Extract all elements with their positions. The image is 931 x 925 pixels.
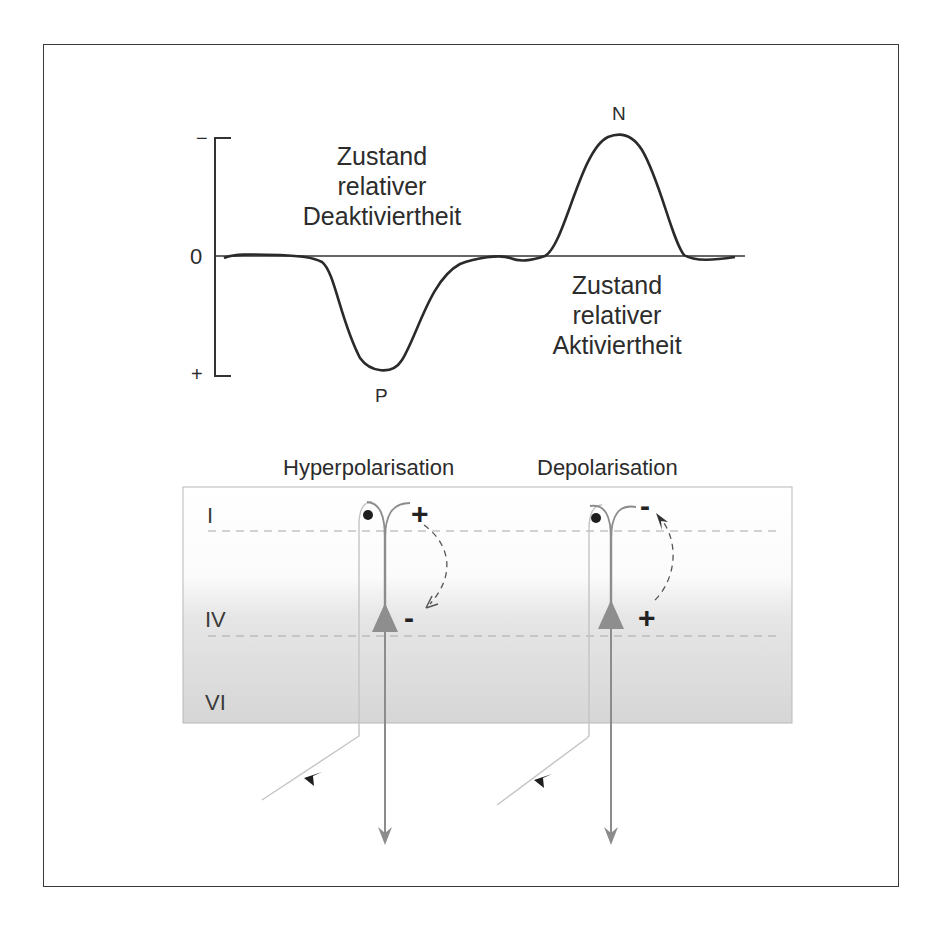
apical-charge-depolarisation: -	[640, 488, 650, 524]
synapse-dot	[363, 510, 373, 520]
y-tick-zero: 0	[190, 244, 202, 270]
cortex-block	[183, 487, 792, 723]
state-activation-label: Zustand relativer Aktiviertheit	[522, 270, 712, 360]
input-arrowhead-icon	[304, 772, 322, 786]
layer-label-vi: VI	[205, 690, 226, 716]
soma-charge-hyperpolarisation: -	[404, 600, 414, 636]
soma-charge-depolarisation: +	[638, 600, 656, 636]
peak-label-p: P	[375, 385, 388, 408]
state-deactivation-label: Zustand relativer Deaktiviertheit	[287, 141, 477, 231]
panel-title-hyperpolarisation: Hyperpolarisation	[283, 455, 454, 481]
y-tick-negative: −	[196, 126, 208, 150]
panel-title-depolarisation: Depolarisation	[537, 455, 678, 481]
figure-graphics	[0, 0, 931, 925]
apical-charge-hyperpolarisation: +	[411, 496, 429, 532]
peak-label-n: N	[612, 103, 626, 126]
synapse-dot	[591, 513, 601, 523]
cortex-diagram	[183, 487, 792, 845]
layer-label-iv: IV	[205, 607, 226, 633]
y-tick-positive: +	[191, 362, 203, 386]
layer-label-i: I	[207, 503, 213, 529]
